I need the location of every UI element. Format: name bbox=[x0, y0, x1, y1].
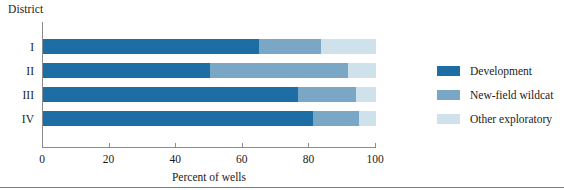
bar-segment bbox=[43, 39, 259, 54]
legend-item: New-field wildcat bbox=[437, 83, 553, 107]
category-label: III bbox=[23, 88, 35, 100]
x-axis-tick bbox=[42, 143, 43, 148]
bar-segment bbox=[259, 39, 321, 54]
chart-legend: DevelopmentNew-field wildcatOther explor… bbox=[437, 59, 553, 131]
x-axis-tick bbox=[109, 143, 110, 148]
bar-segment bbox=[313, 111, 360, 126]
x-axis-tick bbox=[375, 143, 376, 148]
legend-swatch bbox=[437, 114, 460, 124]
x-axis-tick bbox=[175, 143, 176, 148]
category-label: II bbox=[26, 64, 34, 76]
x-axis-tick-label: 20 bbox=[103, 153, 115, 165]
plot-area: IIIIIIIV 020406080100 Percent of wells bbox=[42, 22, 375, 148]
bar-segment bbox=[43, 87, 298, 102]
legend-label: New-field wildcat bbox=[470, 89, 553, 101]
category-label: IV bbox=[22, 112, 34, 124]
x-axis-tick bbox=[242, 143, 243, 148]
y-axis-title: District bbox=[8, 3, 43, 15]
bar-segment bbox=[43, 111, 313, 126]
bar-segment bbox=[43, 63, 210, 78]
bar-segment bbox=[298, 87, 356, 102]
legend-item: Development bbox=[437, 59, 553, 83]
bar-segment bbox=[210, 63, 348, 78]
legend-label: Development bbox=[470, 65, 532, 77]
chart-figure: District IIIIIIIV 020406080100 Percent o… bbox=[0, 0, 564, 190]
bottom-rule bbox=[0, 187, 564, 188]
x-axis-tick-label: 0 bbox=[39, 153, 45, 165]
legend-label: Other exploratory bbox=[470, 113, 552, 125]
bar-segment bbox=[359, 111, 376, 126]
bar-segment bbox=[321, 39, 376, 54]
x-axis-tick bbox=[308, 143, 309, 148]
legend-swatch bbox=[437, 66, 460, 76]
x-axis-tick-label: 80 bbox=[303, 153, 315, 165]
legend-item: Other exploratory bbox=[437, 107, 553, 131]
x-axis-tick-label: 100 bbox=[366, 153, 383, 165]
x-axis-tick-label: 40 bbox=[169, 153, 181, 165]
category-label: I bbox=[30, 40, 34, 52]
x-axis-title: Percent of wells bbox=[42, 171, 376, 183]
legend-swatch bbox=[437, 90, 460, 100]
bar-segment bbox=[348, 63, 376, 78]
x-axis-tick-label: 60 bbox=[236, 153, 248, 165]
bar-segment bbox=[356, 87, 376, 102]
x-axis-line bbox=[42, 147, 376, 148]
